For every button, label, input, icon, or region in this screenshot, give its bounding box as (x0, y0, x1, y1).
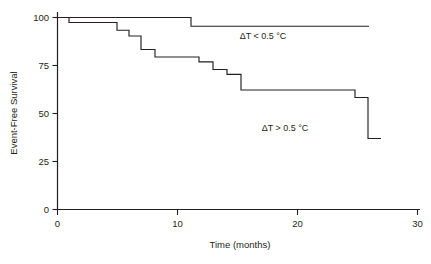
chart-canvas: 100 75 50 25 0 0 10 20 30 Time (months) … (0, 0, 431, 264)
y-tick-label-75: 75 (38, 60, 49, 71)
y-axis-title: Event-Free Survival (8, 71, 19, 154)
y-tick-label-25: 25 (38, 156, 49, 167)
x-axis-title: Time (months) (210, 239, 271, 250)
y-tick-label-100: 100 (33, 12, 49, 23)
curve-label-upper: ΔT < 0.5 °C (240, 31, 287, 41)
y-tick-label-50: 50 (38, 108, 49, 119)
kaplan-meier-figure: 100 75 50 25 0 0 10 20 30 Time (months) … (0, 0, 431, 264)
x-tick-label-30: 30 (412, 218, 423, 229)
y-tick-label-0: 0 (44, 204, 49, 215)
x-tick-label-10: 10 (172, 218, 183, 229)
curve-label-lower: ΔT > 0.5 °C (262, 123, 309, 133)
survival-curve-upper (58, 18, 370, 27)
survival-curve-lower (58, 18, 382, 139)
x-tick-label-20: 20 (292, 218, 303, 229)
x-tick-label-0: 0 (55, 218, 60, 229)
